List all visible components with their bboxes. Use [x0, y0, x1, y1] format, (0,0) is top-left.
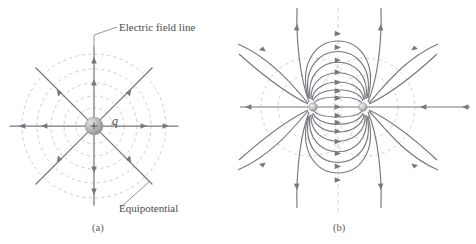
field-arrow — [19, 123, 25, 129]
field-line — [239, 110, 308, 160]
field-line — [36, 68, 89, 121]
field-line — [369, 54, 437, 104]
field-arrow — [41, 123, 47, 129]
field-arrow — [378, 24, 384, 30]
charge-dot — [359, 103, 367, 111]
field-arrow — [378, 184, 384, 190]
field-arrow — [245, 104, 251, 110]
field-arrow — [259, 163, 266, 168]
field-arrow — [126, 89, 131, 97]
field-arrow — [91, 57, 97, 63]
field-arrow — [294, 184, 300, 190]
field-arrow — [57, 89, 62, 97]
field-arrow — [294, 24, 300, 30]
charge-positive-a — [85, 117, 103, 135]
field-line — [99, 68, 152, 121]
field-line — [238, 111, 308, 170]
field-arrow — [411, 163, 418, 168]
field-arrow — [420, 104, 426, 110]
field-line — [369, 110, 437, 160]
field-arrow — [259, 47, 266, 52]
field-line — [238, 44, 308, 103]
charge-negative-b — [359, 103, 367, 111]
field-arrow — [126, 155, 131, 163]
field-arrow — [91, 167, 97, 173]
field-arrow — [141, 123, 147, 129]
field-arrow — [411, 46, 418, 51]
panel-caption-b: (b) — [333, 222, 345, 233]
field-arrow — [462, 104, 468, 110]
leader-electric-field-line — [94, 27, 117, 47]
field-arrow — [57, 155, 62, 163]
field-arrow — [91, 79, 97, 85]
panel-caption-a: (a) — [92, 222, 104, 233]
charge-positive-b — [309, 103, 317, 111]
label-charge-q: q — [112, 114, 118, 129]
label-equipotential: Equipotential — [119, 202, 178, 214]
field-line — [239, 54, 308, 104]
field-line — [36, 131, 89, 184]
field-line — [99, 131, 152, 184]
field-arrow — [91, 189, 97, 195]
label-electric-field-line: Electric field line — [119, 21, 195, 33]
panel-b — [238, 8, 470, 212]
panel-a — [10, 27, 178, 206]
physics-figure — [0, 0, 476, 244]
charge-dot — [309, 103, 317, 111]
